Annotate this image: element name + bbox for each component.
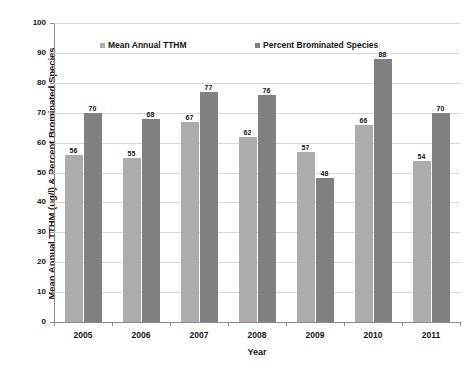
x-tick-mark xyxy=(228,322,229,326)
bar-group-2009: 5748 xyxy=(286,23,344,322)
x-tick-label-2010: 2010 xyxy=(343,331,403,340)
bar-value-label: 54 xyxy=(418,153,426,160)
bar-value-label: 77 xyxy=(205,84,213,91)
x-tick-mark xyxy=(286,322,287,326)
bar-2005-series-1[interactable]: 70 xyxy=(84,113,102,322)
x-tick-mark xyxy=(344,322,345,326)
x-tick-label-2008: 2008 xyxy=(227,331,287,340)
bar-2008-series-0[interactable]: 62 xyxy=(239,137,257,322)
x-tick-mark xyxy=(54,322,55,326)
x-tick-label-2009: 2009 xyxy=(285,331,345,340)
y-tick-label: 90 xyxy=(20,49,46,57)
y-tick-label: 10 xyxy=(20,288,46,296)
x-tick-mark xyxy=(460,322,461,326)
y-tick-label: 80 xyxy=(20,79,46,87)
y-tick-label: 60 xyxy=(20,139,46,147)
bar-group-2007: 6777 xyxy=(170,23,228,322)
bar-group-2008: 6276 xyxy=(228,23,286,322)
x-tick-label-2006: 2006 xyxy=(111,331,171,340)
y-tick-label: 20 xyxy=(20,258,46,266)
x-tick-label-2007: 2007 xyxy=(169,331,229,340)
bar-value-label: 76 xyxy=(263,87,271,94)
y-tick-label: 0 xyxy=(20,318,46,326)
bar-chart: Mean Annual TTHM (ug/l) & Percent Bromin… xyxy=(0,0,476,373)
bar-value-label: 88 xyxy=(379,51,387,58)
bar-2007-series-0[interactable]: 67 xyxy=(181,122,199,322)
y-tick-label: 50 xyxy=(20,169,46,177)
y-tick-label: 40 xyxy=(20,198,46,206)
bar-2011-series-1[interactable]: 70 xyxy=(432,113,450,322)
bar-2011-series-0[interactable]: 54 xyxy=(413,161,431,322)
bar-2008-series-1[interactable]: 76 xyxy=(258,95,276,322)
bar-value-label: 68 xyxy=(147,111,155,118)
bar-value-label: 57 xyxy=(302,144,310,151)
bar-2009-series-0[interactable]: 57 xyxy=(297,152,315,322)
x-axis-line xyxy=(54,322,460,323)
bar-2010-series-0[interactable]: 66 xyxy=(355,125,373,322)
bar-value-label: 70 xyxy=(437,105,445,112)
bar-2006-series-0[interactable]: 55 xyxy=(123,158,141,322)
bar-group-2010: 6688 xyxy=(344,23,402,322)
y-tick-label: 30 xyxy=(20,228,46,236)
bar-2007-series-1[interactable]: 77 xyxy=(200,92,218,322)
bar-value-label: 66 xyxy=(360,117,368,124)
x-tick-mark xyxy=(170,322,171,326)
bar-group-2005: 5670 xyxy=(54,23,112,322)
y-tick-label: 100 xyxy=(20,19,46,27)
y-tick-label: 70 xyxy=(20,109,46,117)
bars-container: 5670556867776276574866885470 xyxy=(54,23,460,322)
x-axis-title: Year xyxy=(54,347,460,357)
x-tick-label-2005: 2005 xyxy=(53,331,113,340)
bar-value-label: 55 xyxy=(128,150,136,157)
bar-2005-series-0[interactable]: 56 xyxy=(65,155,83,322)
bar-value-label: 70 xyxy=(89,105,97,112)
x-tick-label-2011: 2011 xyxy=(401,331,461,340)
bar-value-label: 67 xyxy=(186,114,194,121)
bar-value-label: 48 xyxy=(321,170,329,177)
x-tick-mark xyxy=(402,322,403,326)
bar-2006-series-1[interactable]: 68 xyxy=(142,119,160,322)
bar-2009-series-1[interactable]: 48 xyxy=(316,178,334,322)
bar-value-label: 62 xyxy=(244,129,252,136)
bar-group-2006: 5568 xyxy=(112,23,170,322)
bar-2010-series-1[interactable]: 88 xyxy=(374,59,392,322)
x-tick-mark xyxy=(112,322,113,326)
bar-value-label: 56 xyxy=(70,147,78,154)
bar-group-2011: 5470 xyxy=(402,23,460,322)
